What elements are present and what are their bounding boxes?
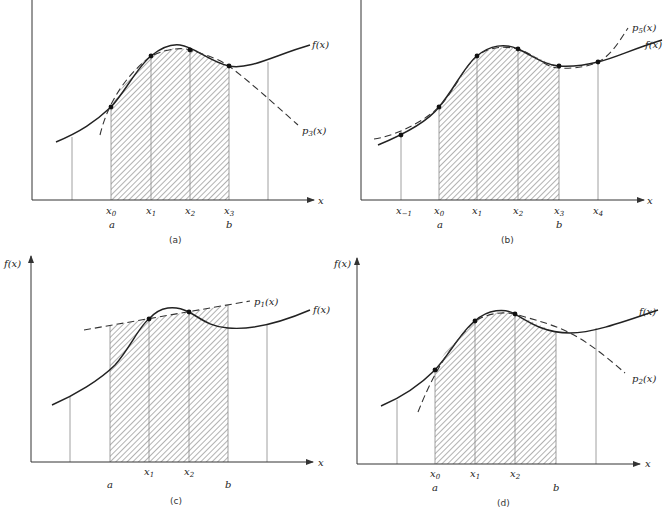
svg-text:x2: x2 <box>184 466 195 479</box>
curve-p-label: p2(x) <box>632 373 656 386</box>
svg-text:x4: x4 <box>593 205 603 218</box>
interval-end-label: b <box>225 479 231 490</box>
svg-text:x0: x0 <box>430 468 441 481</box>
svg-text:x1: x1 <box>144 466 154 479</box>
node-labels: x0 x1 x2 x3 <box>106 205 235 218</box>
x-axis-label: x <box>318 195 324 206</box>
curve-p-label: p1(x) <box>254 296 278 309</box>
curve-p-label: p3(x) <box>302 125 326 138</box>
svg-text:x1: x1 <box>146 205 156 218</box>
interval-end-label: b <box>226 219 232 230</box>
hatched-area <box>111 48 229 200</box>
x-axis-label: x <box>318 457 324 468</box>
figure-canvas: f(x) p3(x) x x0 x1 x2 x3 a b (a) <box>0 0 664 514</box>
interval-end-label: b <box>553 482 559 493</box>
curve-p-label: p5(x) <box>632 22 656 35</box>
panel-caption: (a) <box>169 235 182 245</box>
svg-text:x1: x1 <box>472 205 482 218</box>
interval-start-label: a <box>432 482 438 493</box>
svg-text:x2: x2 <box>185 205 196 218</box>
svg-text:x3: x3 <box>224 205 235 218</box>
curve-f-label: f(x) <box>312 304 330 315</box>
hatched-area <box>439 47 559 200</box>
node-labels: x1 x2 <box>144 466 195 479</box>
y-axis-label: f(x) <box>333 258 351 269</box>
interval-end-label: b <box>556 219 562 230</box>
interval-start-label: a <box>109 219 115 230</box>
interval-start-label: a <box>437 219 443 230</box>
svg-text:x0: x0 <box>106 205 117 218</box>
svg-text:x2: x2 <box>513 205 524 218</box>
svg-text:x3: x3 <box>554 205 565 218</box>
panel-c: f(x) p1(x) f(x) x x1 x2 a b (c) <box>3 256 330 506</box>
node-labels: x0 x1 x2 <box>430 468 521 481</box>
x-axis-label: x <box>645 458 651 469</box>
panel-a: f(x) p3(x) x x0 x1 x2 x3 a b (a) <box>32 0 329 245</box>
interval-start-label: a <box>107 479 113 490</box>
curve-f-label: f(x) <box>644 39 662 50</box>
panel-b: p5(x) f(x) x x−1 x0 x1 x2 x3 x4 a b (b) <box>361 0 662 245</box>
curve-f-label: f(x) <box>638 306 656 317</box>
svg-text:x2: x2 <box>510 468 521 481</box>
panel-caption: (d) <box>497 498 510 508</box>
curve-f-label: f(x) <box>311 39 329 50</box>
svg-text:x1: x1 <box>470 468 480 481</box>
panel-caption: (b) <box>501 235 514 245</box>
panel-d: f(x) f(x) p2(x) x x0 x1 x2 a b (d) <box>333 258 658 508</box>
hatched-area <box>435 312 556 464</box>
svg-text:x−1: x−1 <box>396 205 412 218</box>
panel-caption: (c) <box>170 496 182 506</box>
svg-text:x0: x0 <box>434 205 445 218</box>
y-axis-label: f(x) <box>3 258 21 269</box>
x-axis-label: x <box>647 195 653 206</box>
node-labels: x−1 x0 x1 x2 x3 x4 <box>396 205 603 218</box>
hatched-area <box>110 305 228 462</box>
